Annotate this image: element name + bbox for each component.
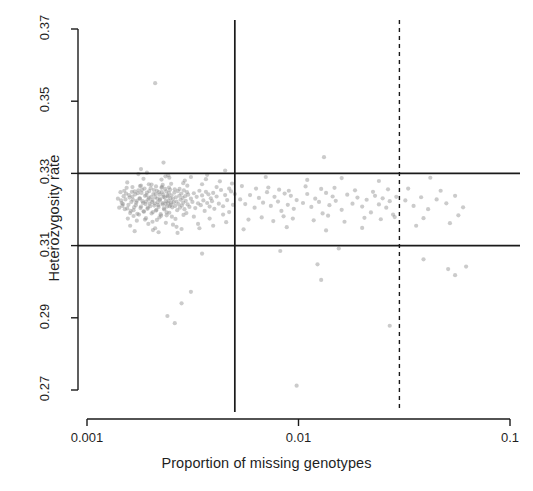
data-point [133, 192, 137, 196]
data-point [295, 198, 299, 202]
data-point [221, 212, 225, 216]
data-point [170, 215, 174, 219]
data-point [164, 221, 168, 225]
scatter-plot-figure: Proportion of missing genotypes Heterozy… [0, 0, 533, 491]
data-point [156, 203, 160, 207]
data-point [257, 196, 261, 200]
data-point [165, 213, 169, 217]
data-point [321, 211, 325, 215]
reference-lines-layer [78, 20, 520, 412]
data-point [117, 206, 121, 210]
data-point [221, 204, 225, 208]
data-point [130, 190, 134, 194]
data-point [134, 201, 138, 205]
data-point [261, 201, 265, 205]
data-point [435, 197, 439, 201]
data-point [295, 384, 299, 388]
data-point [137, 196, 141, 200]
data-point [360, 226, 364, 230]
data-point [241, 227, 245, 231]
data-point [446, 267, 450, 271]
data-point [327, 203, 331, 207]
data-point [128, 224, 132, 228]
data-point [285, 225, 289, 229]
data-point [342, 220, 346, 224]
data-point [384, 206, 388, 210]
data-point [230, 181, 234, 185]
data-point [411, 204, 415, 208]
data-point [139, 167, 143, 171]
data-point [362, 216, 366, 220]
data-point [171, 223, 175, 227]
data-point [138, 184, 142, 188]
data-point [204, 177, 208, 181]
data-point [159, 177, 163, 181]
data-point [324, 228, 328, 232]
data-point [151, 210, 155, 214]
data-point [439, 189, 443, 193]
data-point [190, 200, 194, 204]
data-point [182, 207, 186, 211]
data-point [332, 186, 336, 190]
data-point [169, 182, 173, 186]
data-point [260, 215, 264, 219]
data-point [147, 189, 151, 193]
data-point [192, 191, 196, 195]
data-point [353, 188, 357, 192]
data-point [215, 185, 219, 189]
data-point [388, 324, 392, 328]
y-tick-label: 0.35 [37, 78, 52, 122]
data-point [149, 195, 153, 199]
data-point [313, 197, 317, 201]
data-point [331, 194, 335, 198]
data-point [148, 204, 152, 208]
data-point [243, 202, 247, 206]
data-point [225, 198, 229, 202]
data-point [355, 195, 359, 199]
data-point [125, 180, 129, 184]
data-point [179, 227, 183, 231]
data-point [414, 224, 418, 228]
data-point [144, 216, 148, 220]
data-point [419, 195, 423, 199]
data-point [184, 199, 188, 203]
data-point [281, 214, 285, 218]
data-point [350, 202, 354, 206]
data-point [142, 186, 146, 190]
data-point [403, 198, 407, 202]
data-point [461, 205, 465, 209]
data-point [166, 194, 170, 198]
data-point [305, 192, 309, 196]
data-point [157, 190, 161, 194]
data-point [305, 178, 309, 182]
data-point [118, 190, 122, 194]
data-point [246, 218, 250, 222]
data-point [154, 184, 158, 188]
data-point [248, 193, 252, 197]
data-point [175, 231, 179, 235]
data-point [393, 215, 397, 219]
data-point [192, 215, 196, 219]
data-point [340, 176, 344, 180]
data-point [201, 198, 205, 202]
data-point [181, 181, 185, 185]
data-point [146, 222, 150, 226]
data-point [291, 216, 295, 220]
data-point [212, 207, 216, 211]
data-point [322, 155, 326, 159]
data-point [254, 186, 258, 190]
data-point [224, 220, 228, 224]
data-point [266, 185, 270, 189]
data-point [159, 212, 163, 216]
data-point [453, 273, 457, 277]
data-point [426, 207, 430, 211]
data-point [240, 184, 244, 188]
data-point [287, 189, 291, 193]
data-point [135, 219, 139, 223]
data-point [141, 177, 145, 181]
data-point [164, 189, 168, 193]
data-point [464, 264, 468, 268]
data-point [179, 192, 183, 196]
data-point [208, 216, 212, 220]
data-point [238, 197, 242, 201]
